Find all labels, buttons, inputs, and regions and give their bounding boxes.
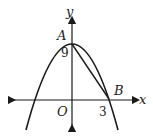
- segment-ab: [72, 44, 109, 99]
- x-intercept-label: 3: [99, 105, 107, 119]
- origin-label: O: [57, 104, 68, 119]
- x-axis-label: x: [139, 92, 147, 107]
- point-a-label: A: [56, 28, 66, 43]
- point-b-label: B: [113, 83, 124, 98]
- diagram-canvas: y x O A B 9 3: [0, 0, 153, 140]
- y-intercept-label: 9: [61, 46, 69, 60]
- y-axis-label: y: [65, 4, 74, 19]
